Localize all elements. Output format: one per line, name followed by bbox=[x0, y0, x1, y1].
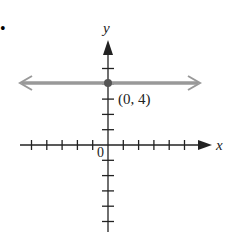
coordinate-plane: y x (0, 4) 0 bbox=[0, 0, 237, 240]
x-axis-label: x bbox=[215, 137, 223, 153]
graph-figure: • y x (0, 4) 0 bbox=[0, 0, 237, 240]
point-0-4 bbox=[104, 79, 112, 87]
y-axis-label: y bbox=[101, 20, 110, 36]
y-axis-arrow-icon bbox=[103, 40, 113, 55]
point-label: (0, 4) bbox=[118, 91, 151, 108]
x-axis-arrow-icon bbox=[198, 140, 212, 150]
origin-label: 0 bbox=[97, 145, 104, 160]
